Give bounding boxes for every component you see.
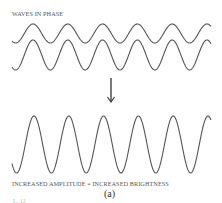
cut-off-text: L. 12	[13, 198, 26, 203]
down-arrow-icon	[108, 78, 115, 102]
second-wave	[12, 40, 211, 70]
combined-wave	[12, 116, 211, 173]
top-wave	[12, 24, 211, 43]
panel-label: (a)	[104, 188, 115, 199]
result-caption: INCREASED AMPLITUDE = INCREASED BRIGHTNE…	[12, 180, 169, 187]
wave-diagram	[0, 0, 222, 203]
